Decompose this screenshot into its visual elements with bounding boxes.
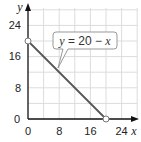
endpoint-x-intercept	[103, 116, 109, 122]
x-axis-arrow-icon	[131, 116, 139, 122]
x-tick-0: 0	[25, 125, 31, 137]
y-tick-24: 24	[9, 19, 21, 31]
callout-equals: = 20 −	[65, 34, 106, 48]
series-line	[28, 41, 106, 119]
x-tick-24: 24	[115, 125, 127, 137]
equation-callout: y = 20 − x	[53, 32, 117, 68]
y-tick-labels: 0 8 16 24	[9, 19, 21, 125]
y-tick-0: 0	[14, 113, 20, 125]
x-tick-8: 8	[56, 125, 62, 137]
grid	[28, 8, 137, 119]
x-tick-labels: 0 8 16 24	[25, 125, 128, 137]
x-axis-label: x	[130, 124, 137, 138]
callout-var-x: x	[104, 34, 111, 48]
chart: 0 8 16 24 x 0 8 16 24 y y = 20 − x	[0, 0, 141, 142]
y-tick-8: 8	[15, 82, 21, 94]
callout-equation: y = 20 − x	[58, 34, 111, 48]
y-axis-label: y	[16, 0, 23, 14]
endpoint-y-intercept	[25, 38, 31, 44]
y-tick-16: 16	[9, 50, 21, 62]
x-tick-16: 16	[84, 125, 96, 137]
y-axis-arrow-icon	[25, 3, 31, 11]
